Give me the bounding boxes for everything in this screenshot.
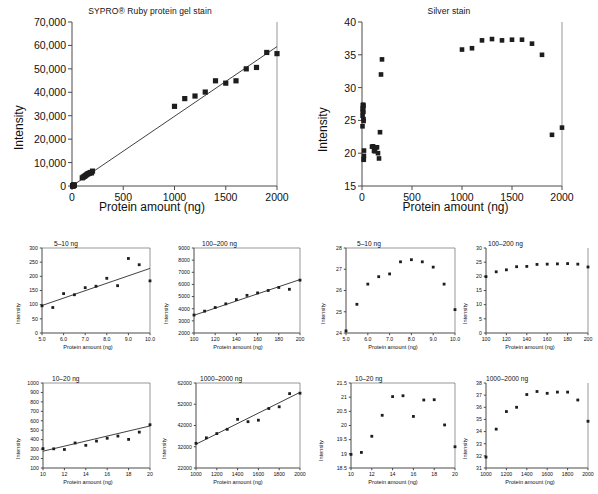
chart-panel-sypro-main: SYPRO® Ruby protein gel stain Intensity … bbox=[0, 0, 300, 220]
x-tick-label: 2000 bbox=[253, 191, 301, 203]
y-tick-label: 50,000 bbox=[34, 63, 66, 75]
data-point bbox=[345, 329, 348, 332]
data-point bbox=[380, 57, 385, 62]
data-point bbox=[495, 428, 498, 431]
data-point bbox=[410, 258, 413, 261]
x-axis-label-sypro-1000-2000: Protein amount (ng) bbox=[178, 479, 298, 485]
y-axis-label-sypro-10-20: Intensity bbox=[15, 438, 21, 459]
data-point bbox=[138, 431, 141, 434]
data-point bbox=[443, 424, 446, 427]
data-point bbox=[480, 38, 485, 43]
data-point bbox=[530, 41, 535, 46]
data-point bbox=[370, 435, 373, 438]
x-tick-label: 2000 bbox=[538, 191, 586, 203]
y-axis-label-silver-1000-2000: Intensity bbox=[462, 438, 468, 459]
data-point bbox=[495, 270, 498, 273]
x-axis-label-sypro-100-200: Protein amount (ng) bbox=[178, 344, 298, 350]
data-point bbox=[350, 453, 353, 456]
data-point bbox=[264, 50, 269, 55]
y-tick-label: 5 bbox=[479, 316, 482, 322]
y-tick-label: 8000 bbox=[178, 257, 190, 263]
data-point bbox=[556, 262, 559, 265]
data-point bbox=[244, 66, 249, 71]
y-tick-label: 800 bbox=[30, 399, 39, 405]
inset-label-silver-100-200: 100–200 ng bbox=[488, 240, 523, 247]
y-axis-label-sypro-1000-2000: Intensity bbox=[161, 438, 167, 459]
y-axis-label-sypro: Intensity bbox=[12, 105, 26, 150]
data-point bbox=[422, 399, 425, 402]
data-point bbox=[412, 415, 415, 418]
x-tick-label: 2000 bbox=[564, 471, 598, 477]
data-point bbox=[485, 275, 488, 278]
data-point bbox=[546, 263, 549, 266]
x-axis-label-sypro-10-20: Protein amount (ng) bbox=[28, 479, 148, 485]
y-axis-label-silver: Intensity bbox=[316, 107, 330, 152]
y-tick-label: 60,000 bbox=[34, 39, 66, 51]
y-tick-label: 27 bbox=[336, 266, 342, 272]
data-point bbox=[236, 418, 239, 421]
data-point bbox=[566, 391, 569, 394]
chart-panel-silver-5-10: 5–10 ng Intensity Protein amount (ng) 24… bbox=[315, 232, 463, 357]
chart-panel-sypro-10-20: 10–20 ng Intensity Protein amount (ng) 1… bbox=[10, 367, 158, 492]
data-point bbox=[247, 420, 250, 423]
data-point bbox=[366, 283, 369, 286]
x-tick-label: 500 bbox=[388, 191, 436, 203]
data-point bbox=[520, 37, 525, 42]
y-axis-label-sypro-5-10: Intensity bbox=[15, 303, 21, 324]
y-tick-label: 31 bbox=[476, 465, 482, 471]
data-point bbox=[256, 292, 259, 295]
data-point bbox=[443, 283, 446, 286]
data-point bbox=[500, 38, 505, 43]
x-tick-label: 0 bbox=[48, 191, 96, 203]
x-tick-label: 1000 bbox=[151, 191, 199, 203]
data-point bbox=[399, 260, 402, 263]
data-point bbox=[362, 154, 367, 159]
y-tick-label: 38 bbox=[476, 380, 482, 386]
y-tick-label: 3000 bbox=[178, 318, 190, 324]
y-tick-label: 42000 bbox=[177, 422, 191, 428]
y-tick-label: 32000 bbox=[177, 444, 191, 450]
y-tick-label: 35 bbox=[476, 416, 482, 422]
data-point bbox=[213, 78, 218, 83]
y-tick-label: 30 bbox=[476, 245, 482, 251]
data-point bbox=[223, 81, 228, 86]
x-tick-label: 200 bbox=[564, 336, 598, 342]
y-tick-label: 0 bbox=[479, 330, 482, 336]
data-point bbox=[203, 310, 206, 313]
data-point bbox=[127, 257, 130, 260]
data-point bbox=[536, 390, 539, 393]
y-tick-label: 300 bbox=[29, 245, 38, 251]
inset-label-sypro-1000-2000: 1000–2000 ng bbox=[200, 375, 242, 382]
y-tick-label: 900 bbox=[30, 389, 39, 395]
y-axis-label-sypro-100-200: Intensity bbox=[163, 303, 169, 324]
data-point bbox=[515, 406, 518, 409]
x-axis-label-silver-5-10: Protein amount (ng) bbox=[333, 344, 453, 350]
y-tick-label: 100 bbox=[29, 301, 38, 307]
data-point bbox=[254, 65, 259, 70]
inset-label-silver-1000-2000: 1000–2000 ng bbox=[486, 375, 528, 382]
data-point bbox=[362, 148, 367, 153]
y-tick-label: 20 bbox=[341, 422, 347, 428]
y-tick-label: 300 bbox=[30, 446, 39, 452]
chart-panel-silver-main: Silver stain Intensity Protein amount (n… bbox=[300, 0, 598, 220]
data-point bbox=[391, 395, 394, 398]
y-tick-label: 26 bbox=[336, 287, 342, 293]
data-point bbox=[540, 53, 545, 58]
y-tick-label: 5000 bbox=[178, 293, 190, 299]
data-point bbox=[42, 447, 45, 450]
data-point bbox=[460, 47, 465, 52]
inset-label-silver-5-10: 5–10 ng bbox=[357, 240, 381, 247]
y-tick-label: 36 bbox=[476, 404, 482, 410]
data-point bbox=[525, 393, 528, 396]
data-point bbox=[117, 435, 120, 438]
data-point bbox=[360, 124, 365, 129]
data-point bbox=[106, 437, 109, 440]
data-point bbox=[257, 419, 260, 422]
data-point bbox=[299, 392, 302, 395]
data-point bbox=[402, 394, 405, 397]
data-point bbox=[299, 279, 302, 282]
y-tick-label: 250 bbox=[29, 259, 38, 265]
data-point bbox=[41, 304, 44, 307]
y-tick-label: 2000 bbox=[178, 330, 190, 336]
data-point bbox=[356, 303, 359, 306]
